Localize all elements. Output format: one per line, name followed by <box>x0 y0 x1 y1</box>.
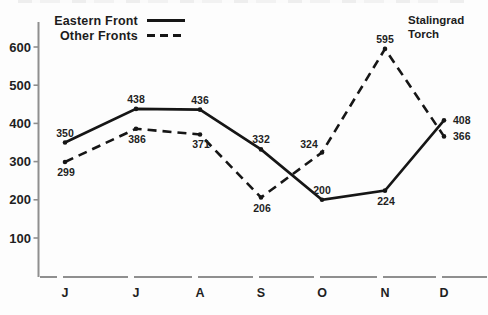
data-point-value-label-other-fronts: 366 <box>453 130 471 142</box>
data-point-marker-eastern-front <box>442 118 447 123</box>
x-axis-label: J <box>62 286 69 300</box>
x-axis-label: N <box>380 286 389 300</box>
x-axis-label: J <box>133 286 140 300</box>
y-axis-tick-label: 500 <box>9 78 31 93</box>
data-point-marker-eastern-front <box>383 188 388 193</box>
data-point-marker-other-fronts <box>320 150 325 155</box>
data-point-marker-other-fronts <box>134 126 139 131</box>
data-point-marker-other-fronts <box>63 160 68 165</box>
data-point-marker-other-fronts <box>442 134 447 139</box>
y-axis-tick-label: 300 <box>9 154 31 169</box>
x-axis-label: O <box>317 286 327 300</box>
series-line-eastern-front <box>65 109 444 200</box>
data-point-value-label-eastern-front: 436 <box>191 94 209 106</box>
data-point-value-label-eastern-front: 332 <box>252 133 270 145</box>
x-axis-label: A <box>195 286 204 300</box>
chart-svg: 100200300400500600JJASOND350438436332200… <box>0 0 488 315</box>
data-point-value-label-eastern-front: 224 <box>377 195 395 207</box>
data-point-value-label-other-fronts: 595 <box>376 33 394 45</box>
data-point-marker-other-fronts <box>259 195 264 200</box>
data-point-value-label-other-fronts: 299 <box>57 166 75 178</box>
legend: Eastern Front Other Fronts <box>28 13 185 43</box>
legend-label-other-fronts: Other Fronts <box>28 29 138 43</box>
data-point-marker-eastern-front <box>63 140 68 145</box>
legend-item-eastern-front: Eastern Front <box>28 13 185 28</box>
solid-line-swatch <box>147 19 185 22</box>
y-axis-tick-label: 400 <box>9 116 31 131</box>
data-point-marker-eastern-front <box>134 107 139 112</box>
data-point-marker-eastern-front <box>259 147 264 152</box>
data-point-marker-other-fronts <box>198 132 203 137</box>
data-point-marker-other-fronts <box>383 47 388 52</box>
legend-label-eastern-front: Eastern Front <box>28 14 138 28</box>
annotation-line-2: Torch <box>408 27 464 41</box>
x-axis-label: D <box>439 286 448 300</box>
annotation-line-1: Stalingrad <box>408 13 464 27</box>
data-point-value-label-eastern-front: 350 <box>56 127 74 139</box>
annotation-stalingrad-torch: Stalingrad Torch <box>408 13 464 41</box>
series-line-other-fronts <box>65 49 444 198</box>
figure-container: 100200300400500600JJASOND350438436332200… <box>0 0 488 315</box>
data-point-marker-eastern-front <box>320 198 325 203</box>
y-axis-tick-label: 100 <box>9 231 31 246</box>
data-point-value-label-other-fronts: 324 <box>300 138 318 150</box>
data-point-value-label-eastern-front: 200 <box>313 184 331 196</box>
data-point-value-label-other-fronts: 206 <box>253 202 271 214</box>
data-point-marker-eastern-front <box>198 107 203 112</box>
y-axis-tick-label: 200 <box>9 192 31 207</box>
x-axis-label: S <box>257 286 265 300</box>
dashed-line-swatch <box>147 34 185 37</box>
data-point-value-label-eastern-front: 438 <box>127 93 145 105</box>
data-point-value-label-other-fronts: 371 <box>192 138 210 150</box>
data-point-value-label-other-fronts: 386 <box>128 133 146 145</box>
data-point-value-label-eastern-front: 408 <box>453 114 471 126</box>
legend-item-other-fronts: Other Fronts <box>28 28 185 43</box>
